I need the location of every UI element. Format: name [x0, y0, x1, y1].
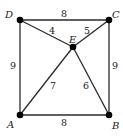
- edge-e-b: [73, 47, 109, 115]
- edges: [20, 20, 109, 115]
- node-d: [17, 17, 24, 24]
- vertex-label-a: A: [6, 119, 14, 130]
- weight-e-b: 6: [83, 80, 89, 91]
- graph-canvas: A B C D E 8 4 5 9 9 7 6 8: [0, 0, 123, 139]
- node-b: [106, 112, 113, 119]
- vertex-label-d: D: [4, 9, 13, 20]
- vertex-label-c: C: [112, 9, 120, 20]
- vertex-label-b: B: [111, 120, 119, 131]
- weight-a-b: 8: [61, 117, 67, 128]
- edge-e-c: [73, 20, 109, 47]
- weight-d-a: 9: [10, 60, 16, 71]
- edge-a-e: [20, 47, 73, 115]
- weight-c-b: 9: [112, 60, 118, 71]
- weight-e-c: 5: [84, 25, 90, 36]
- node-a: [17, 112, 24, 119]
- weight-a-e: 7: [50, 80, 56, 91]
- weight-d-e: 4: [49, 25, 55, 36]
- vertex-label-e: E: [68, 34, 77, 45]
- weight-d-c: 8: [61, 8, 67, 19]
- nodes: [17, 17, 113, 119]
- edge-d-e: [20, 20, 73, 47]
